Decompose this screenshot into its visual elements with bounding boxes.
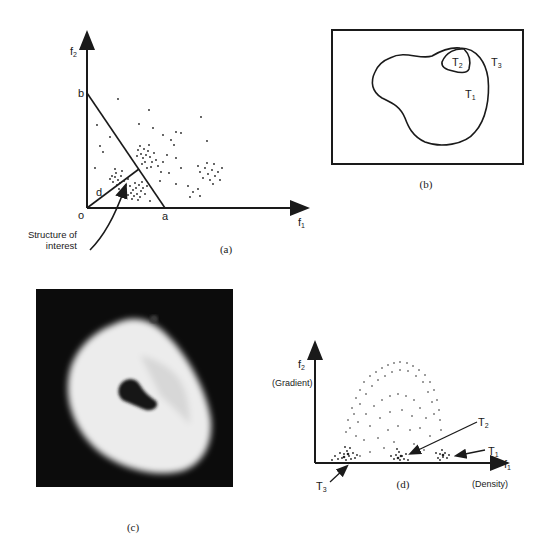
annotation-line-2: interest	[46, 240, 78, 251]
cluster-t1-label: T1	[488, 445, 499, 458]
origin-label: o	[78, 209, 84, 221]
point-b-label: b	[78, 87, 84, 99]
panel-d-feature-scatter: f2 (Gradient) f1 (Density) T2 T1 T3 (d)	[270, 310, 546, 510]
y-axis-label: f2	[70, 45, 77, 58]
x-axis-label: f1	[298, 216, 305, 229]
t1-arrow	[460, 450, 485, 455]
scatter-points	[331, 361, 450, 461]
region-t2-label: T2	[452, 56, 463, 69]
panel-a-feature-space: f2 f1 b o a d Structure of interest (a)	[0, 0, 320, 280]
x-axis-name: (Density)	[472, 479, 508, 489]
t3-arrow	[330, 469, 344, 482]
t2-arrow	[414, 422, 477, 452]
panel-d-diagram: f2 (Gradient) f1 (Density) T2 T1 T3 (d)	[270, 310, 546, 510]
panel-b-diagram: T2 T3 T1 (b)	[320, 20, 540, 200]
cluster-t2-label: T2	[478, 416, 489, 429]
annotation-line-1: Structure of	[28, 229, 77, 240]
cluster-t3-label: T3	[316, 480, 327, 493]
scatter-points	[94, 98, 223, 202]
caption-a: (a)	[220, 243, 233, 256]
caption-c: (c)	[127, 521, 140, 534]
distance-label: d	[96, 186, 102, 198]
panel-a-diagram: f2 f1 b o a d Structure of interest (a)	[0, 0, 320, 280]
distance-line	[87, 169, 139, 208]
region-t3-label: T3	[491, 56, 502, 69]
image-frame	[332, 30, 523, 164]
point-a-label: a	[162, 210, 169, 222]
y-axis-name: (Gradient)	[272, 378, 313, 388]
region-t1-label: T1	[465, 88, 476, 101]
x-axis-label: f1	[504, 458, 511, 471]
caption-b: (b)	[420, 178, 433, 191]
annotation-arrow	[90, 190, 124, 250]
photo-image: (c)	[30, 285, 250, 540]
y-axis-label: f2	[298, 358, 305, 371]
caption-d: (d)	[397, 478, 410, 491]
panel-b-region-map: T2 T3 T1 (b)	[320, 20, 540, 200]
panel-c-photograph: (c)	[30, 285, 250, 540]
